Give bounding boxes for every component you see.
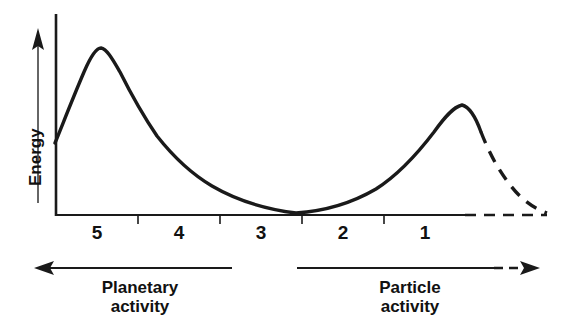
planetary-activity-label: Planetary activity — [60, 278, 220, 316]
particle-activity-label-line2: activity — [330, 297, 490, 316]
particle-activity-label-line1: Particle — [379, 278, 440, 297]
particle-arrow-head-icon — [520, 261, 540, 275]
x-tick-label-3: 3 — [246, 222, 276, 244]
planetary-activity-label-line1: Planetary — [102, 278, 179, 297]
energy-curve-solid — [55, 48, 481, 213]
y-axis-title: Energy — [26, 128, 46, 186]
particle-activity-label: Particle activity — [330, 278, 490, 316]
x-tick-label-1: 1 — [410, 222, 440, 244]
x-tick-label-5: 5 — [82, 222, 112, 244]
planetary-activity-label-line2: activity — [60, 297, 220, 316]
energy-curve-dashed — [481, 132, 547, 213]
x-tick-label-2: 2 — [328, 222, 358, 244]
x-tick-label-4: 4 — [164, 222, 194, 244]
